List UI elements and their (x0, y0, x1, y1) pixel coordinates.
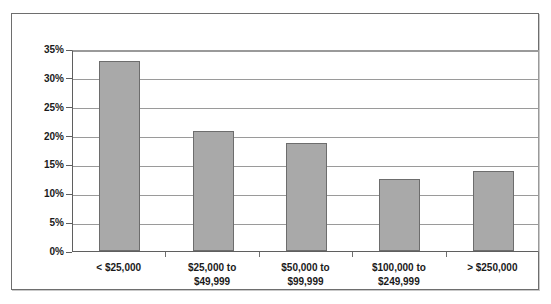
x-axis-tick-mark (352, 252, 353, 257)
bar (193, 131, 234, 251)
gridline (73, 79, 538, 80)
gridline (73, 108, 538, 109)
x-axis-category-label: < $25,000 (72, 261, 165, 275)
chart-page: 0%5%10%15%20%25%30%35% < $25,000$25,000 … (0, 0, 551, 304)
bar (379, 179, 420, 251)
x-axis-category-label: > $250,000 (446, 261, 539, 275)
bar (99, 61, 140, 251)
chart-frame: 0%5%10%15%20%25%30%35% < $25,000$25,000 … (11, 13, 539, 290)
x-axis-category-label: $50,000 to $99,999 (259, 261, 352, 289)
x-axis-labels: < $25,000$25,000 to $49,999$50,000 to $9… (72, 261, 539, 301)
bar (473, 171, 514, 251)
x-axis-tick-mark (446, 252, 447, 257)
y-axis-tick-marks (12, 50, 72, 252)
x-axis-tick-marks (72, 252, 539, 258)
plot-area (72, 50, 539, 252)
x-axis-tick-mark (259, 252, 260, 257)
x-axis-category-label: $100,000 to $249,999 (352, 261, 445, 289)
x-axis-tick-mark (165, 252, 166, 257)
bar (286, 143, 327, 251)
x-axis-category-label: $25,000 to $49,999 (165, 261, 258, 289)
gridline (73, 137, 538, 138)
gridline (73, 51, 538, 52)
